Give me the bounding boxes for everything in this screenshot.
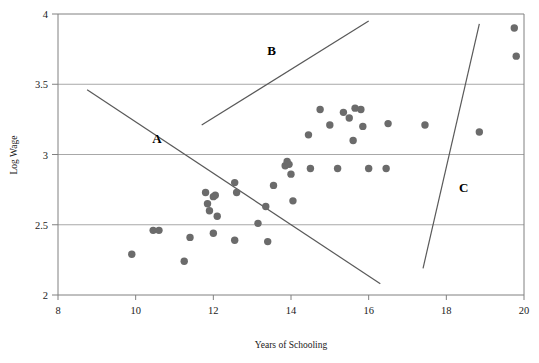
data-point bbox=[186, 234, 193, 241]
data-point bbox=[511, 24, 518, 31]
data-point bbox=[384, 120, 391, 127]
region-label-b: B bbox=[267, 43, 276, 58]
data-point bbox=[289, 197, 296, 204]
x-tick-label-20: 20 bbox=[519, 305, 530, 316]
x-tick-label-14: 14 bbox=[286, 305, 297, 316]
y-tick-label-4: 4 bbox=[43, 9, 49, 20]
data-point bbox=[326, 121, 333, 128]
data-point bbox=[128, 251, 135, 258]
data-point bbox=[307, 165, 314, 172]
region-label-a: A bbox=[152, 131, 162, 146]
data-points bbox=[128, 24, 520, 265]
data-point bbox=[359, 123, 366, 130]
data-point bbox=[155, 227, 162, 234]
data-point bbox=[316, 106, 323, 113]
data-point bbox=[349, 137, 356, 144]
scatter-plot-figure: 810121416182022.533.54 ABC Years of Scho… bbox=[0, 0, 539, 363]
data-point bbox=[231, 237, 238, 244]
x-tick-label-10: 10 bbox=[130, 305, 141, 316]
data-point bbox=[210, 229, 217, 236]
data-point bbox=[264, 238, 271, 245]
x-tick-label-8: 8 bbox=[55, 305, 60, 316]
x-tick-label-18: 18 bbox=[441, 305, 452, 316]
chart-canvas: 810121416182022.533.54 ABC Years of Scho… bbox=[0, 0, 539, 363]
data-point bbox=[382, 165, 389, 172]
data-point bbox=[334, 165, 341, 172]
data-point bbox=[287, 170, 294, 177]
data-point bbox=[212, 192, 219, 199]
data-point bbox=[262, 203, 269, 210]
data-point bbox=[305, 131, 312, 138]
y-tick-label-2: 2 bbox=[43, 290, 48, 301]
x-tick-label-12: 12 bbox=[208, 305, 219, 316]
data-point bbox=[204, 200, 211, 207]
data-point bbox=[181, 258, 188, 265]
regression-lines bbox=[87, 21, 479, 284]
x-tick-label-16: 16 bbox=[363, 305, 374, 316]
data-point bbox=[214, 213, 221, 220]
data-point bbox=[513, 52, 520, 59]
data-point bbox=[340, 109, 347, 116]
data-point bbox=[233, 189, 240, 196]
y-tick-label-2.5: 2.5 bbox=[35, 220, 48, 231]
data-point bbox=[270, 182, 277, 189]
data-point bbox=[476, 128, 483, 135]
axis-ticks bbox=[52, 14, 524, 300]
data-point bbox=[421, 121, 428, 128]
tick-labels: 810121416182022.533.54 bbox=[35, 9, 529, 316]
data-point bbox=[346, 114, 353, 121]
region-annotations: ABC bbox=[152, 43, 468, 196]
data-point bbox=[202, 189, 209, 196]
x-axis-title: Years of Schooling bbox=[255, 340, 328, 350]
data-point bbox=[254, 220, 261, 227]
data-point bbox=[206, 207, 213, 214]
y-axis-title: Log Wage bbox=[9, 136, 19, 175]
region-label-c: C bbox=[459, 180, 468, 195]
data-point bbox=[357, 106, 364, 113]
axis-titles: Years of Schooling Log Wage bbox=[9, 136, 327, 350]
y-tick-label-3.5: 3.5 bbox=[35, 79, 48, 90]
y-tick-label-3: 3 bbox=[43, 150, 48, 161]
regression-line-c bbox=[423, 24, 479, 268]
data-point bbox=[231, 179, 238, 186]
data-point bbox=[285, 161, 292, 168]
data-point bbox=[365, 165, 372, 172]
